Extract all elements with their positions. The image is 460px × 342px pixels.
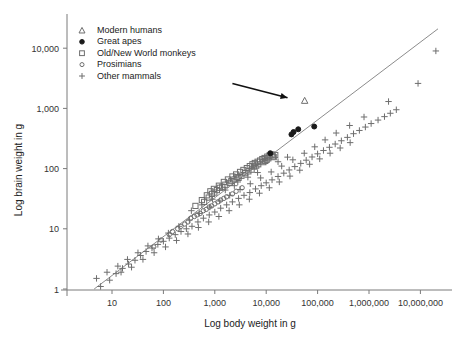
data-point [113,270,119,276]
data-point [247,181,253,187]
data-point [375,117,381,123]
data-point [128,264,134,270]
data-point [223,202,229,208]
data-point [301,150,307,156]
data-point [104,269,110,275]
legend-label: Great apes [97,36,142,46]
x-tick-label: 10,000 [252,298,280,308]
legend-marker-circle-open [80,63,84,67]
y-tick-label: 10 [49,224,59,234]
legend-item-modern-humans: Modern humans [79,25,163,35]
data-point [289,132,294,137]
data-point [268,151,273,156]
data-point [320,147,326,153]
data-point [337,145,343,151]
data-point [322,137,328,143]
data-point [241,167,246,172]
data-point [327,150,333,156]
data-point [368,120,374,126]
data-point [252,186,258,192]
data-point [306,161,312,167]
legend-label: Other mammals [97,71,162,81]
data-point [263,180,269,186]
data-point [303,157,309,163]
data-point [298,160,304,166]
data-point [338,138,344,144]
data-point [268,169,274,175]
data-point [301,97,307,103]
data-point [312,124,317,129]
series-other-mammals [93,48,439,290]
data-point [296,127,301,132]
x-tick-label: 100 [156,298,171,308]
data-point [387,110,393,116]
data-point [415,80,421,86]
data-point [350,130,356,136]
data-point [235,195,241,201]
data-point [326,144,332,150]
series-modern-humans [301,97,307,103]
legend-marker-plus [79,73,85,79]
x-tick-label: 1,000 [204,298,227,308]
y-tick-label: 1,000 [36,104,59,114]
legend-item-prosimians: Prosimians [80,59,142,69]
data-point [247,189,253,195]
data-points-layer [93,48,439,290]
data-point [309,154,315,160]
data-point [93,275,99,281]
data-point [236,202,242,208]
data-point [292,163,298,169]
data-point [234,189,238,193]
data-point [381,113,387,119]
data-point [393,107,399,113]
data-point [356,127,362,133]
legend-marker-triangle-open [79,27,85,33]
data-point [206,212,212,218]
data-point [333,130,339,136]
annotation-arrow [232,83,287,99]
plot-canvas: 1101001,00010,000101001,00010,000100,000… [0,0,460,342]
data-point [276,179,282,185]
legend-label: Prosimians [97,59,142,69]
data-point [205,219,211,225]
data-point [106,277,112,283]
data-point [286,167,292,173]
legend-label: Modern humans [97,25,163,35]
data-point [217,205,223,211]
series-great-apes [268,124,317,156]
y-axis-title: Log brain weight in g [13,124,24,216]
legend-marker-square-open [80,51,85,56]
data-point [287,173,293,179]
legend-label: Old/New World monkeys [97,48,196,58]
data-point [269,177,275,183]
data-point [200,215,206,221]
x-tick-label: 10,000,000 [398,298,443,308]
data-point [143,248,149,254]
data-point [281,170,287,176]
y-tick-label: 10,000 [31,44,59,54]
scatter-plot-figure: 1101001,00010,000101001,00010,000100,000… [0,0,460,342]
data-point [195,224,201,230]
data-point [275,173,281,179]
data-point [172,231,178,237]
data-point [297,167,303,173]
data-point [385,98,391,104]
data-point [362,124,368,130]
legend-layer: Modern humansGreat apesOld/New World mon… [79,25,196,81]
x-tick-label: 10 [107,298,117,308]
data-point [278,163,284,169]
data-point [344,134,350,140]
x-tick-label: 100,000 [301,298,334,308]
series-old-new-world-monkeys [193,152,278,209]
data-point [132,257,138,263]
data-point [162,244,168,250]
data-point [193,203,198,208]
data-point [97,283,103,289]
data-point [189,223,195,229]
legend-item-other-mammals: Other mammals [79,71,161,81]
annotations-layer [232,83,287,99]
data-point [257,175,263,181]
legend-item-old-new-world-monkeys: Old/New World monkeys [80,48,197,58]
data-point [226,207,232,213]
x-axis-title: Log body weight in g [204,318,296,329]
